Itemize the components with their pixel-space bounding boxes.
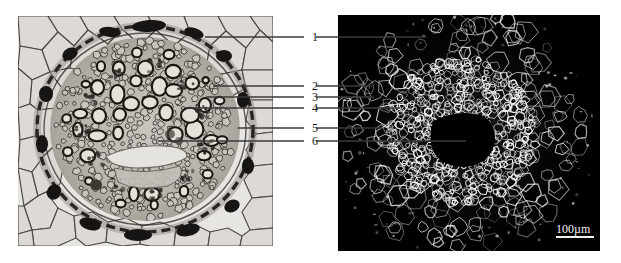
fluorescent-speckle bbox=[508, 231, 510, 234]
fluorescent-speckle bbox=[562, 186, 563, 189]
fluorescent-speckle bbox=[554, 75, 557, 77]
fluorescent-speckle bbox=[438, 231, 441, 233]
fluorescent-speckle bbox=[535, 62, 539, 63]
fluorescent-speckle bbox=[374, 175, 378, 177]
fluorescent-speckle bbox=[373, 214, 376, 215]
fluorescent-speckle bbox=[575, 193, 578, 196]
fluorescent-speckle bbox=[370, 191, 373, 192]
fluorescent-speckle bbox=[516, 41, 520, 43]
fluorescent-speckle bbox=[579, 111, 583, 112]
fluorescence-content bbox=[338, 15, 600, 251]
fluorescent-speckle bbox=[365, 93, 366, 95]
fluorescent-speckle bbox=[386, 196, 388, 198]
fluorescent-speckle bbox=[392, 235, 395, 237]
fluorescent-speckle bbox=[481, 225, 483, 228]
fluorescent-speckle bbox=[340, 88, 343, 90]
fluorescent-speckle bbox=[547, 71, 550, 74]
fluorescent-speckle bbox=[588, 173, 590, 176]
brightfield-micrograph bbox=[18, 16, 273, 246]
fluorescent-speckle bbox=[552, 179, 553, 180]
brightfield-svg bbox=[18, 16, 273, 246]
fluorescent-speckle bbox=[358, 139, 361, 141]
fluorescent-speckle bbox=[465, 244, 466, 247]
fluorescent-speckle bbox=[576, 75, 577, 76]
central-lacuna-dark bbox=[430, 113, 495, 167]
fluorescent-speckle bbox=[422, 35, 425, 36]
fluorescent-speckle bbox=[534, 226, 536, 229]
label-4: 4 bbox=[309, 102, 321, 114]
fluorescent-speckle bbox=[577, 168, 580, 169]
fluorescent-speckle bbox=[587, 144, 589, 147]
fluorescent-speckle bbox=[433, 27, 435, 29]
fluorescent-speckle bbox=[362, 83, 366, 84]
fluorescent-speckle bbox=[480, 27, 483, 28]
fluorescent-speckle bbox=[500, 24, 504, 25]
fluorescence-micrograph bbox=[338, 15, 600, 251]
fluorescent-speckle bbox=[413, 22, 415, 25]
fluorescent-speckle bbox=[386, 223, 388, 225]
fluorescent-speckle bbox=[493, 27, 494, 29]
fluorescent-speckle bbox=[466, 29, 468, 32]
fluorescent-speckle bbox=[355, 172, 357, 175]
fluorescent-speckle bbox=[375, 230, 378, 234]
fluorescent-speckle bbox=[422, 19, 424, 21]
tone-overlay bbox=[18, 16, 273, 246]
fluorescent-speckle bbox=[466, 24, 468, 27]
fluorescent-speckle bbox=[358, 151, 362, 155]
fluorescent-speckle bbox=[408, 212, 412, 215]
fluorescent-speckle bbox=[548, 83, 552, 86]
fluorescent-speckle bbox=[538, 238, 541, 241]
fluorescent-speckle bbox=[575, 161, 579, 162]
fluorescence-svg bbox=[338, 15, 600, 251]
fluorescent-speckle bbox=[515, 226, 517, 229]
fluorescent-speckle bbox=[560, 177, 562, 180]
fluorescent-speckle bbox=[525, 213, 527, 214]
fluorescent-speckle bbox=[510, 30, 512, 33]
figure-root: 1 2 3 4 5 6 100µm bbox=[0, 0, 621, 263]
fluorescent-speckle bbox=[501, 26, 503, 28]
fluorescent-speckle bbox=[357, 170, 358, 173]
fluorescent-speckle bbox=[354, 206, 357, 209]
fluorescent-speckle bbox=[495, 22, 497, 25]
fluorescent-speckle bbox=[562, 132, 563, 135]
fluorescent-speckle bbox=[543, 27, 546, 30]
fluorescent-speckle bbox=[408, 43, 409, 47]
fluorescent-speckle bbox=[405, 30, 409, 31]
fluorescent-speckle bbox=[539, 223, 541, 225]
fluorescent-speckle bbox=[354, 118, 357, 120]
fluorescent-speckle bbox=[554, 178, 557, 180]
fluorescent-speckle bbox=[416, 246, 418, 249]
fluorescent-speckle bbox=[470, 25, 472, 29]
fluorescent-speckle bbox=[366, 80, 368, 81]
fluorescent-speckle bbox=[569, 72, 573, 74]
fluorescent-speckle bbox=[572, 202, 575, 205]
scalebar-label: 100µm bbox=[556, 223, 590, 235]
fluorescent-speckle bbox=[495, 234, 499, 237]
fluorescent-speckle bbox=[523, 221, 525, 222]
fluorescent-speckle bbox=[582, 123, 585, 126]
fluorescent-speckle bbox=[494, 17, 496, 19]
fluorescent-speckle bbox=[345, 181, 347, 183]
fluorescent-speckle bbox=[412, 212, 415, 213]
fluorescent-speckle bbox=[538, 71, 540, 74]
fluorescent-speckle bbox=[374, 224, 378, 226]
fluorescent-speckle bbox=[380, 181, 383, 185]
fluorescent-speckle bbox=[419, 42, 423, 44]
label-column: 1 2 3 4 5 6 bbox=[303, 0, 319, 263]
fluorescent-speckle bbox=[591, 114, 592, 118]
fluorescent-speckle bbox=[369, 85, 371, 89]
fluorescent-speckle bbox=[485, 17, 488, 19]
label-5: 5 bbox=[309, 122, 321, 134]
fluorescent-speckle bbox=[366, 167, 370, 168]
fluorescent-speckle bbox=[545, 85, 548, 88]
fluorescent-speckle bbox=[564, 77, 568, 80]
fluorescent-speckle bbox=[378, 46, 380, 48]
fluorescent-speckle bbox=[495, 36, 497, 39]
fluorescent-speckle bbox=[350, 70, 351, 72]
fluorescent-speckle bbox=[363, 152, 364, 155]
fluorescent-speckle bbox=[478, 235, 481, 238]
fluorescent-speckle bbox=[367, 78, 370, 79]
label-6: 6 bbox=[309, 135, 321, 147]
fluorescent-speckle bbox=[374, 179, 376, 182]
fluorescent-speckle bbox=[488, 226, 491, 229]
